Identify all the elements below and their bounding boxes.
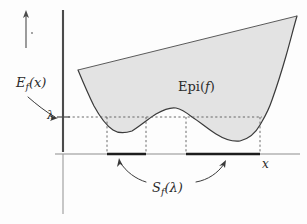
- lambda-level-label: λ: [47, 110, 54, 121]
- ef-base: E: [16, 75, 26, 90]
- epigraph-figure: Ef(x) λ Epi(f) Sf(λ) x: [0, 0, 307, 224]
- epi-base: Epi(: [178, 79, 205, 94]
- epi-close: ): [210, 79, 215, 94]
- sublevel-left-arrow: [120, 162, 146, 182]
- x-axis-label: x: [262, 158, 269, 170]
- sublevel-set-label: Sf(λ): [152, 181, 183, 196]
- epigraph-value-label: Ef(x): [16, 76, 46, 91]
- sf-base: S: [152, 180, 161, 195]
- ef-argument: (x): [29, 75, 46, 90]
- sublevel-right-arrow: [196, 164, 224, 182]
- value-axis-dot: [31, 32, 33, 34]
- epigraph-region-label: Epi(f): [178, 80, 215, 93]
- sf-argument: (λ): [164, 180, 182, 195]
